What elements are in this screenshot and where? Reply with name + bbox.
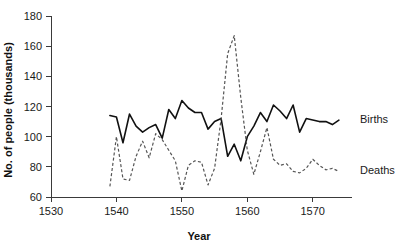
- chart-container: 6080100120140160180 15301540155015601570…: [0, 0, 398, 248]
- series-label-births: Births: [360, 113, 389, 125]
- x-tick-label: 1570: [300, 205, 324, 217]
- y-axis-title: No. of people (thousands): [2, 42, 14, 178]
- series-inline-labels: BirthsDeaths: [360, 113, 395, 176]
- x-tick-label: 1560: [235, 205, 259, 217]
- x-tick-label: 1530: [39, 205, 63, 217]
- y-tick-label: 60: [30, 191, 42, 203]
- x-axis-title: Year: [187, 230, 211, 242]
- line-chart: 6080100120140160180 15301540155015601570…: [0, 0, 398, 248]
- y-axis-ticks: 6080100120140160180: [24, 10, 51, 203]
- y-tick-label: 180: [24, 10, 42, 22]
- x-tick-label: 1540: [104, 205, 128, 217]
- series-label-deaths: Deaths: [360, 164, 395, 176]
- x-axis-ticks: 15301540155015601570: [39, 197, 325, 217]
- y-tick-label: 100: [24, 131, 42, 143]
- series-line-deaths: [110, 36, 339, 191]
- y-tick-label: 120: [24, 101, 42, 113]
- y-tick-label: 80: [30, 161, 42, 173]
- series-line-births: [110, 100, 339, 160]
- y-tick-label: 140: [24, 70, 42, 82]
- data-series-group: [110, 36, 339, 191]
- y-tick-label: 160: [24, 40, 42, 52]
- x-tick-label: 1550: [170, 205, 194, 217]
